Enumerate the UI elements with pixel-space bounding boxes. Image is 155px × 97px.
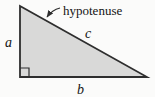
- hypotenuse-label: hypotenuse: [63, 3, 122, 18]
- right-triangle-diagram: hypotenuse a b c: [0, 0, 155, 97]
- right-triangle-figure: hypotenuse a b c: [0, 0, 155, 97]
- side-c-label: c: [85, 26, 92, 41]
- callout-arrow-icon: [47, 8, 60, 17]
- side-b-label: b: [77, 82, 84, 97]
- side-a-label: a: [5, 35, 12, 50]
